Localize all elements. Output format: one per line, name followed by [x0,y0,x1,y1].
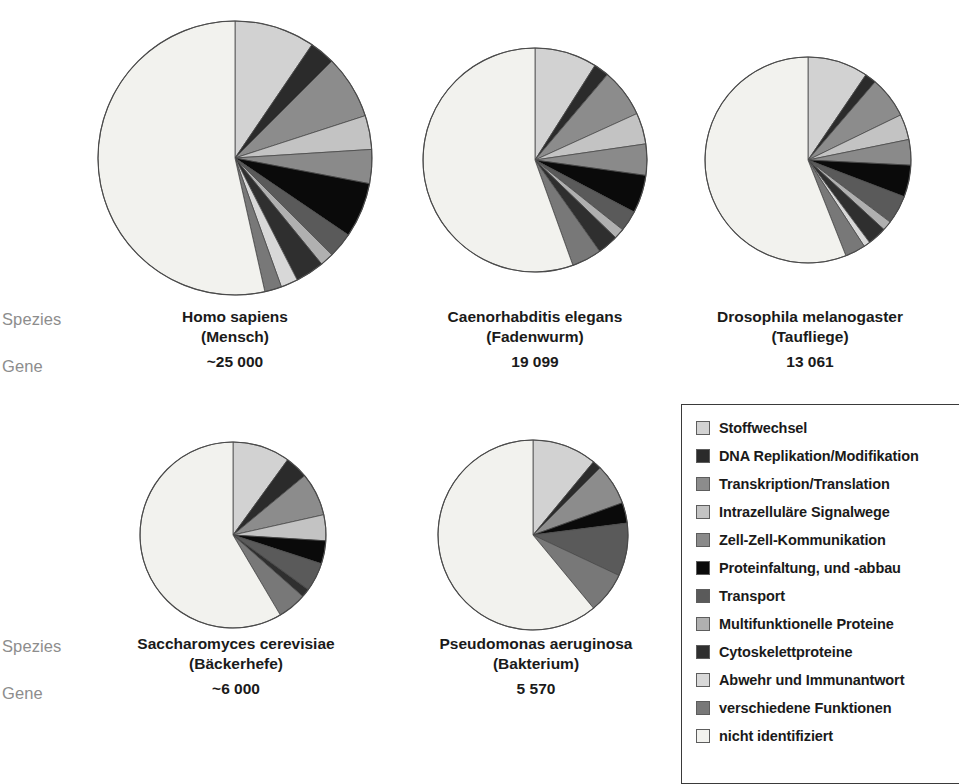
legend: StoffwechselDNA Replikation/Modifikation… [681,404,959,784]
species-scientific-name: Caenorhabditis elegans [420,307,650,327]
legend-item-label: Intrazelluläre Signalwege [719,504,890,520]
row-label-genes-top: Gene [2,357,43,376]
caption-homo-sapiens: Homo sapiens (Mensch) ~25 000 [135,307,335,372]
species-scientific-name: Saccharomyces cerevisiae [113,634,359,654]
legend-item: Proteinfaltung, und -abbau [696,554,959,582]
species-scientific-name: Homo sapiens [135,307,335,327]
legend-swatch-icon [696,729,710,743]
legend-item-label: Transkription/Translation [719,476,890,492]
legend-item-label: Proteinfaltung, und -abbau [719,560,901,576]
legend-swatch-icon [696,645,710,659]
legend-item: Intrazelluläre Signalwege [696,498,959,526]
legend-swatch-icon [696,617,710,631]
legend-swatch-icon [696,673,710,687]
pie-chart-saccharomyces-cerevisiae [136,438,330,632]
row-label-genes-bottom: Gene [2,684,43,703]
species-common-name: (Bäckerhefe) [113,654,359,674]
caption-saccharomyces-cerevisiae: Saccharomyces cerevisiae (Bäckerhefe) ~6… [113,634,359,699]
legend-item: Stoffwechsel [696,414,959,442]
caption-caenorhabditis-elegans: Caenorhabditis elegans (Fadenwurm) 19 09… [420,307,650,372]
legend-swatch-icon [696,421,710,435]
legend-item-label: Zell-Zell-Kommunikation [719,532,886,548]
species-common-name: (Taufliege) [690,327,930,347]
legend-item-label: DNA Replikation/Modifikation [719,448,919,464]
row-label-species-top: Spezies [2,310,61,329]
legend-swatch-icon [696,477,710,491]
row-label-species-bottom: Spezies [2,637,61,656]
species-common-name: (Fadenwurm) [420,327,650,347]
legend-item-label: Transport [719,588,785,604]
legend-item-label: Cytoskelettproteine [719,644,852,660]
caption-pseudomonas-aeruginosa: Pseudomonas aeruginosa (Bakterium) 5 570 [418,634,654,699]
legend-item: Transkription/Translation [696,470,959,498]
species-gene-count: ~6 000 [113,679,359,699]
legend-item: Zell-Zell-Kommunikation [696,526,959,554]
pie-chart-caenorhabditis-elegans [419,44,651,276]
legend-swatch-icon [696,589,710,603]
legend-item: Multifunktionelle Proteine [696,610,959,638]
legend-swatch-icon [696,533,710,547]
species-common-name: (Mensch) [135,327,335,347]
legend-swatch-icon [696,449,710,463]
species-common-name: (Bakterium) [418,654,654,674]
legend-item-label: verschiedene Funktionen [719,700,892,716]
legend-item: Cytoskelettproteine [696,638,959,666]
legend-item: DNA Replikation/Modifikation [696,442,959,470]
legend-item-label: Multifunktionelle Proteine [719,616,894,632]
species-scientific-name: Drosophila melanogaster [690,307,930,327]
species-gene-count: 19 099 [420,352,650,372]
legend-item: Transport [696,582,959,610]
legend-item: Abwehr und Immunantwort [696,666,959,694]
species-gene-count: 5 570 [418,679,654,699]
caption-drosophila-melanogaster: Drosophila melanogaster (Taufliege) 13 0… [690,307,930,372]
species-scientific-name: Pseudomonas aeruginosa [418,634,654,654]
legend-item: nicht identifiziert [696,722,959,750]
legend-item-label: Abwehr und Immunantwort [719,672,904,688]
legend-swatch-icon [696,701,710,715]
pie-chart-homo-sapiens [94,17,376,299]
species-gene-count: 13 061 [690,352,930,372]
pie-chart-pseudomonas-aeruginosa [434,436,632,634]
legend-item-label: Stoffwechsel [719,420,807,436]
legend-swatch-icon [696,561,710,575]
legend-swatch-icon [696,505,710,519]
pie-chart-drosophila-melanogaster [701,53,915,267]
legend-item: verschiedene Funktionen [696,694,959,722]
legend-item-label: nicht identifiziert [719,728,833,744]
species-gene-count: ~25 000 [135,352,335,372]
